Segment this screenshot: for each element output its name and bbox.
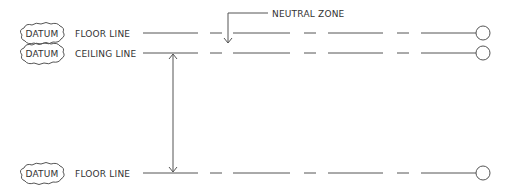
row-floor-line-bottom: DATUM FLOOR LINE [20,163,490,185]
datum-cloud-icon: DATUM [20,43,64,65]
floor-line-label: FLOOR LINE [75,29,130,39]
row-ceiling-line: DATUM CEILING LINE [20,43,490,65]
datum-cloud-icon: DATUM [20,23,64,45]
floor-line-label: FLOOR LINE [75,169,130,179]
neutral-zone-label: NEUTRAL ZONE [272,9,345,19]
datum-bubble-icon [476,166,490,180]
neutral-zone-callout: NEUTRAL ZONE [224,9,345,44]
diagram-svg: DATUM FLOOR LINE DATUM CEILING LINE DATU… [0,0,510,194]
datum-tag-label: DATUM [25,49,58,59]
ceiling-line-label: CEILING LINE [75,49,136,59]
leader-line [228,13,268,43]
dimension-arrow [169,54,177,172]
datum-diagram: DATUM FLOOR LINE DATUM CEILING LINE DATU… [0,0,510,194]
datum-tag-label: DATUM [25,169,58,179]
datum-cloud-icon: DATUM [20,163,64,185]
datum-bubble-icon [476,46,490,60]
datum-bubble-icon [476,26,490,40]
datum-tag-label: DATUM [25,29,58,39]
row-floor-line-top: DATUM FLOOR LINE [20,23,490,45]
